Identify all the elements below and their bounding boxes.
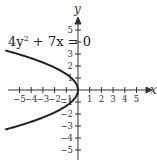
equation-label: 4y2 + 7x = 0 <box>8 34 91 49</box>
y-tick-label: −4 <box>60 133 73 143</box>
y-tick-label: 3 <box>68 49 73 59</box>
y-axis-label: y <box>73 2 81 16</box>
y-tick-label: −5 <box>60 145 73 155</box>
parabola-chart: −5−4−3−2−1123455321−1−2−3−4−5 x y <box>0 0 157 165</box>
y-axis-arrow-icon <box>75 17 81 24</box>
x-tick-label: −2 <box>48 94 61 104</box>
x-tick-label: −4 <box>25 94 38 104</box>
x-tick-label: 4 <box>122 94 127 104</box>
x-tick-label: 3 <box>110 94 115 104</box>
x-tick-label: −5 <box>13 94 26 104</box>
x-tick-label: 2 <box>99 94 104 104</box>
x-tick-label: −3 <box>37 94 50 104</box>
y-tick-label: −2 <box>60 109 73 119</box>
y-tick-label: 2 <box>68 61 73 71</box>
x-axis-label: x <box>150 83 157 97</box>
x-tick-label: 1 <box>87 94 92 104</box>
y-tick-label: −3 <box>60 121 73 131</box>
x-tick-label: 5 <box>134 94 139 104</box>
